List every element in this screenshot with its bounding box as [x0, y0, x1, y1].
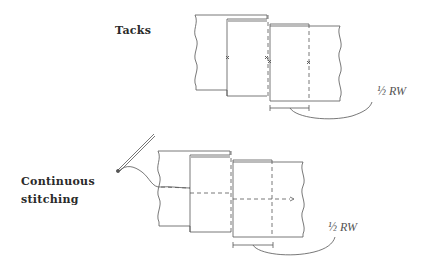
- thread-stitch-line: [119, 167, 294, 201]
- tacks-measurement: [270, 102, 372, 119]
- tacks-fabric: [195, 15, 341, 101]
- continuous-fabric: [158, 151, 304, 237]
- needle-icon: [116, 134, 155, 173]
- diagram-illustration: [0, 0, 434, 268]
- continuous-measurement: [233, 237, 335, 255]
